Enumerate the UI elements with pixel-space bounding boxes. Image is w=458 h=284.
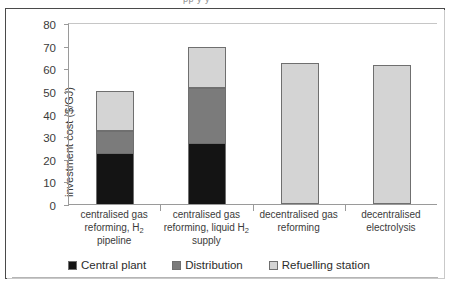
legend-item: Central plant <box>68 259 146 271</box>
y-axis-tick-label: 10 <box>43 177 56 189</box>
bar-1 <box>96 89 134 204</box>
bar-segment-refuelling-station <box>373 65 411 204</box>
legend-swatch <box>68 261 77 270</box>
x-axis-label-3: decentralised gasreforming <box>253 209 345 234</box>
x-axis-label-2: centralised gasreforming, liquid H2suppl… <box>160 209 252 248</box>
y-axis-tick: 10 <box>64 182 69 183</box>
bar-segment-central-plant <box>96 153 134 205</box>
x-axis-label-line: reforming, liquid H2 <box>160 222 252 236</box>
y-axis-tick-label: 0 <box>50 200 56 212</box>
y-axis-tick-label: 80 <box>43 19 56 31</box>
legend-swatch <box>172 261 181 270</box>
plot-area: 01020304050607080 <box>68 23 437 204</box>
x-axis-label-line: reforming, H2 <box>68 222 160 236</box>
bar-2 <box>188 45 226 205</box>
x-axis-label-line: decentralised <box>345 209 437 222</box>
legend-label: Central plant <box>81 259 146 271</box>
x-axis-label-1: centralised gasreforming, H2pipeline <box>68 209 160 248</box>
bar-segment-refuelling-station <box>281 63 319 204</box>
y-axis-tick-label: 30 <box>43 132 56 144</box>
chart-legend: Central plantDistributionRefuelling stat… <box>68 259 418 271</box>
bar-4 <box>373 65 411 204</box>
x-axis-label-line: centralised gas <box>160 209 252 222</box>
chart-figure: pp y y investment cost ($/GJ) 0102030405… <box>0 0 458 284</box>
bar-segment-refuelling-station <box>188 47 226 89</box>
y-axis-tick-label: 40 <box>43 110 56 122</box>
y-axis-tick: 60 <box>64 69 69 70</box>
bar-segment-central-plant <box>188 143 226 205</box>
legend-item: Refuelling station <box>269 259 370 271</box>
y-axis-tick: 20 <box>64 160 69 161</box>
y-axis-tick: 30 <box>64 137 69 138</box>
y-axis-tick-label: 50 <box>43 87 56 99</box>
clipped-title-text: pp y y <box>183 0 263 5</box>
y-axis-tick: 70 <box>64 47 69 48</box>
x-axis-label-line: decentralised gas <box>253 209 345 222</box>
x-axis-label-line: reforming <box>253 222 345 235</box>
legend-label: Distribution <box>185 259 243 271</box>
bar-segment-distribution <box>188 88 226 143</box>
bar-3 <box>281 63 319 204</box>
y-axis-tick: 50 <box>64 92 69 93</box>
y-axis-tick: 80 <box>64 24 69 25</box>
y-axis-tick-label: 20 <box>43 155 56 167</box>
legend-label: Refuelling station <box>282 259 370 271</box>
bar-segment-distribution <box>96 131 134 154</box>
legend-item: Distribution <box>172 259 243 271</box>
y-axis-tick: 0 <box>64 205 69 206</box>
x-axis-label-4: decentralisedelectrolysis <box>345 209 437 234</box>
y-axis-tick-label: 60 <box>43 64 56 76</box>
x-axis-line <box>68 204 437 205</box>
bar-segment-refuelling-station <box>96 91 134 132</box>
y-axis-tick: 40 <box>64 115 69 116</box>
x-axis-label-line: centralised gas <box>68 209 160 222</box>
legend-divider <box>12 277 438 278</box>
y-axis-tick-label: 70 <box>43 42 56 54</box>
x-axis-label-line: pipeline <box>68 235 160 248</box>
x-axis-label-line: electrolysis <box>345 222 437 235</box>
legend-swatch <box>269 261 278 270</box>
x-axis-label-line: supply <box>160 235 252 248</box>
